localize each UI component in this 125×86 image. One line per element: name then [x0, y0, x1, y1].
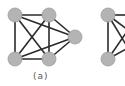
- panel-a-nodes: [8, 8, 82, 66]
- node-2: [42, 8, 56, 22]
- node-1: [8, 8, 22, 22]
- node-7: [101, 52, 115, 66]
- panel-a-label: (a): [33, 71, 49, 81]
- node-4: [8, 52, 22, 66]
- graph-figure: [0, 0, 125, 86]
- node-6: [101, 8, 115, 22]
- panel-a-edges: [15, 15, 75, 59]
- node-5: [42, 52, 56, 66]
- node-3: [68, 30, 82, 44]
